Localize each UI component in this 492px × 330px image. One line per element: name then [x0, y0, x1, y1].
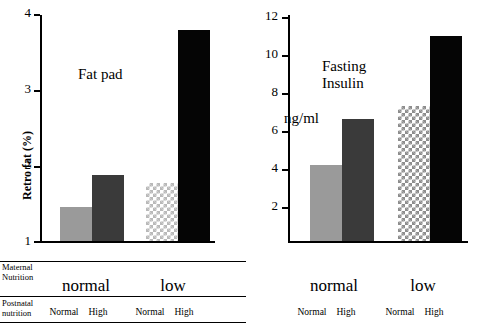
bar-normal-normal	[310, 165, 342, 241]
separator-postnatal-bottom	[0, 322, 246, 323]
chart-panel-fasting-insulin: 12 10 8 6 4 2 ng/ml Fasting Insulin norm…	[246, 0, 492, 330]
left-group-label-low: low	[148, 276, 198, 296]
left-y-axis-title: Retro fat (%)	[20, 131, 35, 200]
left-bars	[40, 15, 215, 241]
separator-postnatal-top	[0, 296, 246, 297]
left-sub-label-2: High	[82, 307, 114, 317]
right-sub-label-4: High	[418, 307, 450, 317]
right-yticklabel-4: 4	[250, 163, 278, 173]
left-x-axis	[40, 241, 215, 243]
right-group-label-low: low	[398, 276, 448, 296]
row-label-maternal-nutrition: Maternal Nutrition	[2, 263, 52, 282]
bar-low-high	[178, 30, 210, 241]
right-yticklabel-2: 2	[250, 201, 278, 211]
bar-normal-normal	[60, 207, 92, 241]
left-sub-label-3: Normal	[130, 307, 170, 317]
left-yticklabel-3: 3	[6, 84, 31, 94]
right-group-label-normal: normal	[304, 276, 364, 296]
right-x-axis	[288, 241, 468, 243]
right-yticklabel-12: 12	[250, 11, 278, 21]
right-sub-label-1: Normal	[292, 307, 332, 317]
left-yticklabel-4: 4	[6, 8, 31, 18]
right-yticklabel-10: 10	[250, 49, 278, 59]
bar-low-normal	[146, 183, 178, 241]
bar-normal-high	[342, 119, 374, 241]
right-bars	[288, 15, 468, 241]
separator-maternal-top	[0, 261, 246, 262]
right-sub-label-3: Normal	[380, 307, 420, 317]
bar-low-high	[430, 36, 462, 241]
left-group-label-normal: normal	[56, 276, 116, 296]
right-yticklabel-8: 8	[250, 87, 278, 97]
right-yticklabel-6: 6	[250, 125, 278, 135]
left-ytick-1	[34, 241, 40, 243]
left-sub-label-4: High	[168, 307, 200, 317]
bar-low-normal	[398, 106, 430, 241]
bar-normal-high	[92, 175, 124, 241]
row-label-postnatal-nutrition: Postnatal nutrition	[2, 299, 52, 318]
right-sub-label-2: High	[330, 307, 362, 317]
left-yticklabel-1: 1	[6, 236, 31, 246]
